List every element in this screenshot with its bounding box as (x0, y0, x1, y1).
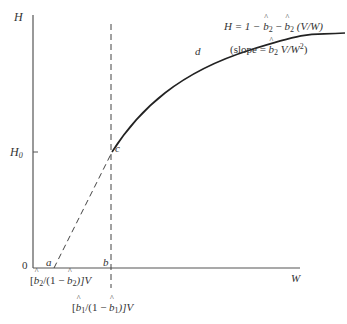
x-axis-label: W (291, 272, 300, 284)
dashed-extension-ac (54, 152, 112, 268)
point-d-label: d (195, 45, 201, 57)
origin-label: 0 (22, 259, 28, 271)
point-c-label: c (115, 142, 120, 154)
curve-cd (112, 33, 345, 152)
point-a-label: a (46, 256, 52, 268)
h0-label: H0 (10, 145, 23, 160)
x-marker-a-label: [b2/(1 − b2)]V (30, 274, 91, 288)
point-b-label: b (103, 256, 109, 268)
x-marker-b-label: [b1/(1 − b1)]V (72, 301, 133, 315)
curve-equation: H = 1 − b2 − b2 (V/W) (224, 20, 323, 34)
y-axis-label: H (14, 10, 23, 25)
slope-annotation: (slope = b2 V/W2) (230, 42, 307, 57)
